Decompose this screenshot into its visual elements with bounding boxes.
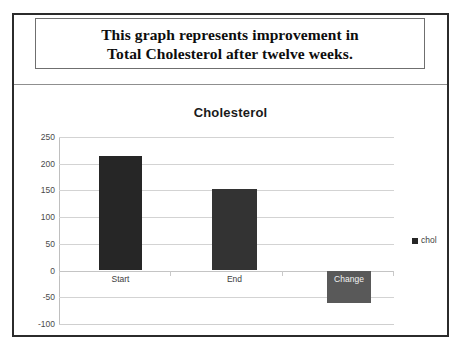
axis-tick <box>59 271 60 276</box>
category-label-end: End <box>212 274 257 284</box>
legend-swatch-icon <box>412 238 418 244</box>
chart-region: Cholesterol 250 200 150 100 50 0 -50 -10… <box>14 85 447 335</box>
y-tick-label: 200 <box>21 160 55 169</box>
screenshot-page: This graph represents improvement in Tot… <box>0 0 459 349</box>
y-tick-label: -50 <box>21 293 55 302</box>
y-tick-label: 0 <box>21 267 55 276</box>
category-label-start: Start <box>99 274 142 284</box>
document-title: This graph represents improvement in Tot… <box>101 25 359 63</box>
chart-title: Cholesterol <box>14 105 447 120</box>
plot-area: Start End Change <box>59 137 394 324</box>
axis-tick <box>282 271 283 276</box>
title-box: This graph represents improvement in Tot… <box>35 18 425 69</box>
y-tick-label: 250 <box>21 133 55 142</box>
axis-tick <box>393 271 394 276</box>
bar-start[interactable] <box>99 156 142 271</box>
gridline <box>59 137 394 138</box>
axis-tick <box>170 271 171 276</box>
bar-end[interactable] <box>212 189 257 271</box>
legend-label: chol <box>421 236 437 245</box>
document-frame: This graph represents improvement in Tot… <box>12 13 449 337</box>
gridline-baseline <box>59 324 394 325</box>
y-axis-tick-labels: 250 200 150 100 50 0 -50 -100 <box>19 137 55 324</box>
y-tick-label: 100 <box>21 213 55 222</box>
category-label-change: Change <box>327 274 371 284</box>
chart-legend: chol <box>412 236 437 245</box>
y-tick-label: 50 <box>21 240 55 249</box>
y-tick-label: -100 <box>21 320 55 329</box>
y-tick-label: 150 <box>21 186 55 195</box>
header-band: This graph represents improvement in Tot… <box>14 15 447 85</box>
